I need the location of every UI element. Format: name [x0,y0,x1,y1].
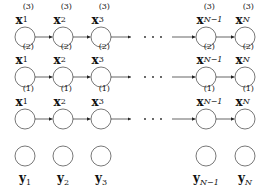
node-x-1-3 [91,109,111,129]
label-y-N: yN [238,169,252,185]
node-x-1-N-1 [196,109,216,129]
variable-symbol: x [236,95,243,109]
time-subscript: 3 [99,16,104,24]
time-subscript: N [245,178,252,187]
time-subscript: 3 [99,98,104,106]
layer-superscript: (1) [243,85,254,93]
label-y-2: y2 [57,169,69,185]
variable-symbol: x [54,53,61,67]
variable-symbol: x [197,13,204,27]
variable-symbol: x [92,95,99,109]
ellipsis-dot [160,36,162,38]
layer-superscript: (2) [23,43,34,51]
variable-symbol: x [54,13,61,27]
variable-symbol: y [95,171,102,185]
label-x-2-2: x(2)2(2) [54,51,73,67]
layer-superscript: (1) [99,85,110,93]
variable-symbol: x [92,13,99,27]
label-y-1: y1 [19,169,31,185]
time-subscript: N−1 [200,178,219,187]
layer-superscript: (1) [61,85,72,93]
time-subscript: 1 [23,98,28,106]
time-subscript: 1 [23,16,28,24]
node-y-1 [15,146,35,166]
variable-symbol: x [54,95,61,109]
label-x-3-1: x(3)1(3) [16,11,35,27]
label-x-2-3: x(2)3(2) [92,51,111,67]
time-subscript: 2 [61,56,66,64]
layer-superscript: (2) [204,43,215,51]
ellipsis-dot [144,36,146,38]
ellipsis-dot [160,76,162,78]
time-subscript: N [243,98,250,106]
ellipsis-dot [160,118,162,120]
variable-symbol: x [16,13,23,27]
variable-symbol: y [238,171,245,185]
time-subscript: N [243,56,250,64]
label-x-1-3: x(1)3(1) [92,93,111,109]
ellipsis-dot [144,118,146,120]
variable-symbol: x [92,53,99,67]
label-x-1-N: x(1)N(1) [236,93,255,109]
variable-symbol: y [193,171,200,185]
node-y-N [235,146,255,166]
ellipsis-dot [152,118,154,120]
layer-superscript: (3) [23,3,34,11]
label-x-2-1: x(2)1(2) [16,51,35,67]
variable-symbol: y [57,171,64,185]
label-x-3-3: x(3)3(3) [92,11,111,27]
layer-superscript: (3) [61,3,72,11]
variable-symbol: x [236,13,243,27]
time-subscript: 3 [102,178,107,187]
time-subscript: N−1 [204,56,223,64]
layer-superscript: (1) [23,85,34,93]
variable-symbol: x [16,95,23,109]
variable-symbol: x [16,53,23,67]
layer-superscript: (1) [204,85,215,93]
layer-superscript: (2) [243,43,254,51]
time-subscript: 2 [61,16,66,24]
variable-symbol: x [197,95,204,109]
time-subscript: 1 [23,56,28,64]
variable-symbol: y [19,171,26,185]
label-y-N-1: yN−1 [193,169,219,185]
node-x-1-N [235,109,255,129]
time-subscript: 2 [64,178,69,187]
label-x-1-N-1: x(1)N−1(1) [197,93,216,109]
ellipsis-dot [144,76,146,78]
label-x-1-2: x(1)2(1) [54,93,73,109]
layer-superscript: (3) [204,3,215,11]
node-x-1-1 [15,109,35,129]
label-x-3-N: x(3)N(3) [236,11,255,27]
layer-superscript: (3) [243,3,254,11]
time-subscript: N [243,16,250,24]
variable-symbol: x [197,53,204,67]
node-y-3 [91,146,111,166]
variable-symbol: x [236,53,243,67]
label-x-3-2: x(3)2(3) [54,11,73,27]
label-y-3: y3 [95,169,107,185]
label-x-2-N-1: x(2)N−1(2) [197,51,216,67]
label-x-2-N: x(2)N(2) [236,51,255,67]
node-y-N-1 [196,146,216,166]
time-subscript: 2 [61,98,66,106]
diagram-canvas [0,0,264,188]
layer-superscript: (3) [99,3,110,11]
label-x-1-1: x(1)1(1) [16,93,35,109]
node-y-2 [53,146,73,166]
time-subscript: 3 [99,56,104,64]
layer-superscript: (2) [99,43,110,51]
ellipsis-dot [152,76,154,78]
ellipsis-dot [152,36,154,38]
time-subscript: 1 [26,178,31,187]
label-x-3-N-1: x(3)N−1(3) [197,11,216,27]
layer-superscript: (2) [61,43,72,51]
time-subscript: N−1 [204,98,223,106]
node-x-1-2 [53,109,73,129]
time-subscript: N−1 [204,16,223,24]
